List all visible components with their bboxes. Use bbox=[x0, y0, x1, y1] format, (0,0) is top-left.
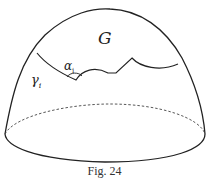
base-front-edge bbox=[5, 134, 205, 162]
region-label: G bbox=[98, 30, 112, 47]
figure: G αi γi Fig. 24 bbox=[0, 0, 209, 182]
figure-caption: Fig. 24 bbox=[0, 164, 209, 179]
angle-label: αi bbox=[64, 60, 74, 75]
curve-label: γi bbox=[31, 73, 41, 90]
region-boundary-curve bbox=[37, 53, 178, 80]
base-back-edge bbox=[5, 104, 205, 134]
